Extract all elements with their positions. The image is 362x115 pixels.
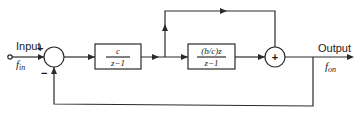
block-2-denominator: z−1 [203, 58, 218, 68]
arrow-icon [347, 54, 354, 60]
arrow-icon [181, 54, 188, 60]
input-terminal [8, 55, 12, 59]
block-diagram: Input fin + − c z−1 (b/c)z z−1 + Output … [0, 0, 362, 115]
output-label: Output [318, 42, 351, 54]
plus-sign: + [272, 51, 278, 63]
arrow-icon [152, 54, 159, 60]
summing-junction-1 [44, 47, 64, 67]
arrow-icon [220, 8, 227, 14]
block-2-numerator: (b/c)z [201, 46, 222, 56]
arrow-icon [51, 67, 57, 74]
block-1-denominator: z−1 [110, 58, 125, 68]
output-signal: fon [325, 60, 336, 74]
minus-sign: − [41, 67, 47, 79]
arrow-icon [38, 54, 44, 60]
arrow-icon [162, 24, 168, 31]
input-signal: fin [16, 58, 25, 72]
arrow-icon [88, 54, 95, 60]
block-1-numerator: c [116, 46, 120, 56]
plus-sign: + [37, 42, 43, 54]
arrow-icon [258, 54, 265, 60]
